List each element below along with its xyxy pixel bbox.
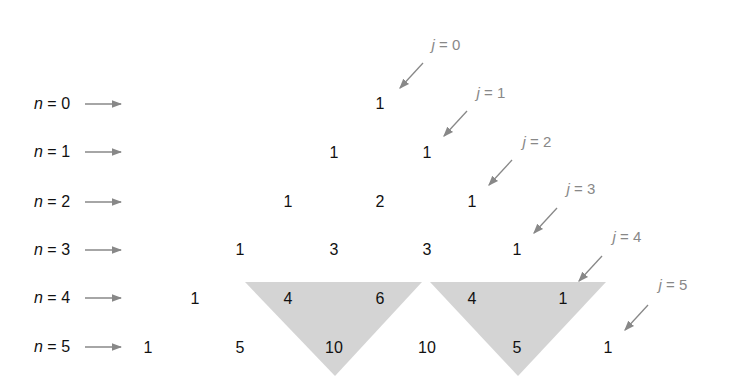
cell-n3-k1: 3	[330, 241, 339, 259]
cell-n3-k3: 1	[513, 241, 522, 259]
row-label-n0: n = 0	[34, 95, 70, 113]
row-label-n2: n = 2	[34, 193, 70, 211]
row-label-n4: n = 4	[34, 289, 70, 307]
cell-n5-k2: 10	[325, 339, 343, 357]
diag-label-j1: j = 1	[477, 84, 506, 101]
diagram-shapes	[0, 0, 729, 383]
cell-n5-k5: 1	[604, 339, 613, 357]
cell-n3-k2: 3	[423, 241, 432, 259]
highlight-triangle-1	[245, 282, 422, 376]
row-label-n3: n = 3	[34, 241, 70, 259]
row-label-n5: n = 5	[34, 338, 70, 356]
cell-n5-k3: 10	[418, 339, 436, 357]
cell-n2-k2: 1	[468, 193, 477, 211]
cell-n5-k0: 1	[144, 339, 153, 357]
diag-label-j5: j = 5	[659, 276, 688, 293]
diag-label-j0: j = 0	[432, 36, 461, 53]
cell-n1-k0: 1	[330, 144, 339, 162]
cell-n5-k4: 5	[513, 339, 522, 357]
diag-label-j4: j = 4	[613, 228, 642, 245]
pascal-triangle-diagram: n = 0 n = 1 n = 2 n = 3 n = 4 n = 5 j = …	[0, 0, 729, 383]
cell-n4-k2: 6	[376, 290, 385, 308]
highlight-triangle-2	[430, 282, 606, 376]
diag-label-j3: j = 3	[567, 180, 596, 197]
diag-label-j2: j = 2	[523, 133, 552, 150]
cell-n4-k3: 4	[468, 290, 477, 308]
cell-n4-k4: 1	[559, 290, 568, 308]
cell-n0-k0: 1	[376, 95, 385, 113]
cell-n4-k1: 4	[284, 290, 293, 308]
cell-n2-k1: 2	[376, 193, 385, 211]
cell-n2-k0: 1	[284, 193, 293, 211]
cell-n1-k1: 1	[423, 144, 432, 162]
cell-n5-k1: 5	[236, 339, 245, 357]
cell-n4-k0: 1	[191, 290, 200, 308]
cell-n3-k0: 1	[236, 241, 245, 259]
row-label-n1: n = 1	[34, 143, 70, 161]
